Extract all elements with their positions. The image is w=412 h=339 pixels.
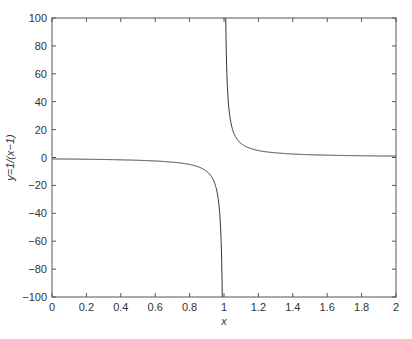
y-axis-label: y=1/(x−1) <box>4 134 16 182</box>
x-tick-label: 0.2 <box>79 301 94 313</box>
y-tick-label: −100 <box>22 291 47 303</box>
y-tick-label: 0 <box>41 152 47 164</box>
x-tick-label: 0.4 <box>113 301 128 313</box>
function-curve <box>52 18 396 297</box>
y-tick-label: −80 <box>28 263 47 275</box>
x-tick-label: 0 <box>49 301 55 313</box>
x-axis-label: x <box>220 315 227 327</box>
y-tick-label: −60 <box>28 235 47 247</box>
y-tick-label: 80 <box>35 40 47 52</box>
y-tick-label: −40 <box>28 207 47 219</box>
chart: 00.20.40.60.811.21.41.61.82 −100−80−60−4… <box>0 0 412 339</box>
curve-right-branch <box>226 18 396 156</box>
y-axis-ticks: −100−80−60−40−20020406080100 <box>22 12 396 303</box>
x-tick-label: 1.8 <box>354 301 369 313</box>
y-tick-label: 40 <box>35 96 47 108</box>
x-tick-label: 1 <box>221 301 227 313</box>
x-tick-label: 0.8 <box>182 301 197 313</box>
x-tick-label: 1.4 <box>285 301 300 313</box>
y-tick-label: −20 <box>28 179 47 191</box>
x-tick-label: 1.2 <box>251 301 266 313</box>
curve-left-branch <box>52 159 222 297</box>
x-tick-label: 0.6 <box>148 301 163 313</box>
x-tick-label: 2 <box>393 301 399 313</box>
y-tick-label: 60 <box>35 68 47 80</box>
x-tick-label: 1.6 <box>320 301 335 313</box>
y-tick-label: 20 <box>35 124 47 136</box>
plot-area-frame <box>52 18 396 297</box>
y-tick-label: 100 <box>29 12 47 24</box>
x-axis-ticks: 00.20.40.60.811.21.41.61.82 <box>49 18 399 313</box>
